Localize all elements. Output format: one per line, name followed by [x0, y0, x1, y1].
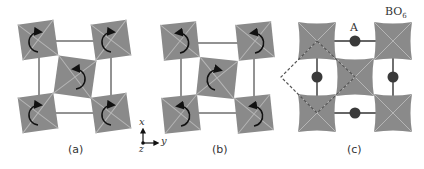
octahedron-tl [18, 20, 59, 61]
axis-x-label: x [139, 116, 145, 127]
octahedron-center [54, 56, 97, 99]
octahedron-tr [91, 20, 132, 61]
panel-b: (b) [150, 0, 290, 169]
caption-b: (b) [212, 143, 228, 156]
octahedron-br [91, 93, 132, 134]
octahedron-br [234, 94, 274, 134]
panel-a: (a) [0, 0, 145, 169]
octahedron-label-main: BO [385, 5, 402, 18]
octahedron-bl [18, 93, 59, 134]
caption-a: (a) [68, 143, 83, 156]
octahedron-tr [235, 21, 275, 61]
octahedron-label-subscript: 6 [402, 12, 406, 20]
octahedron-bl [161, 94, 201, 134]
panel-c: A BO6 (c) [280, 0, 424, 169]
octahedron-center [196, 57, 238, 99]
axis-z-label: z [139, 144, 144, 154]
a-site-label: A [350, 21, 358, 34]
octahedron-tl [160, 21, 200, 61]
octahedron-br [374, 94, 412, 132]
octahedron-label: BO6 [385, 5, 407, 20]
caption-c: (c) [347, 143, 362, 156]
octahedron-tr [374, 22, 412, 60]
